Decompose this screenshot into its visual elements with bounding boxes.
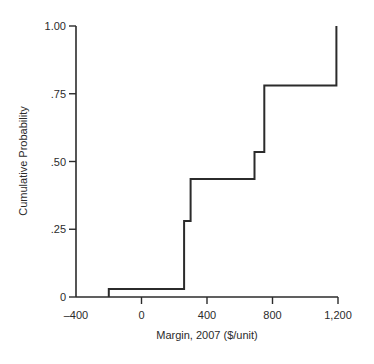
y-tick-label: .75 [51,88,66,100]
x-tick-label: 800 [263,309,281,321]
y-tick-label: 1.00 [45,20,66,32]
x-tick-label: –400 [64,309,88,321]
x-tick-label: 400 [198,309,216,321]
x-axis: –40004008001,200 [64,297,352,321]
x-tick-label: 1,200 [324,309,352,321]
y-axis-title: Cumulative Probability [17,106,29,216]
y-axis: 0.25.50.751.00 [45,20,76,303]
x-axis-title: Margin, 2007 ($/unit) [156,329,258,341]
x-tick-label: 0 [138,309,144,321]
y-tick-label: 0 [60,291,66,303]
y-tick-label: .50 [51,156,66,168]
cdf-step-line [109,26,337,297]
y-tick-label: .25 [51,223,66,235]
cumulative-probability-chart: 0.25.50.751.00 –40004008001,200 Margin, … [0,0,374,364]
